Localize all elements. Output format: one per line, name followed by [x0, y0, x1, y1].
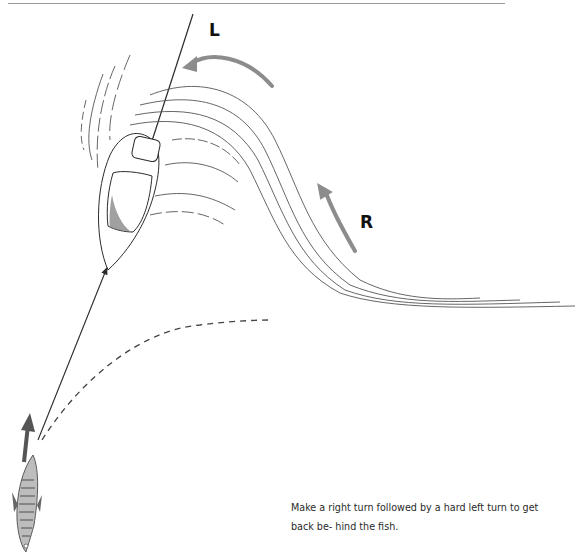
- line-to-boat: [38, 270, 106, 440]
- left-turn-label: L: [209, 20, 220, 40]
- document-page: L R Make a right turn followed by a hard…: [0, 0, 578, 556]
- right-turn-arrow: [314, 183, 355, 251]
- figure-caption: Make a right turn followed by a hard lef…: [291, 498, 561, 536]
- dashed-boat-path: [42, 320, 270, 440]
- left-turn-arrow: [182, 56, 272, 86]
- boat-icon: [98, 133, 161, 270]
- fish-icon: [12, 455, 42, 552]
- fishing-diagram: [0, 0, 578, 556]
- right-turn-label: R: [360, 212, 373, 232]
